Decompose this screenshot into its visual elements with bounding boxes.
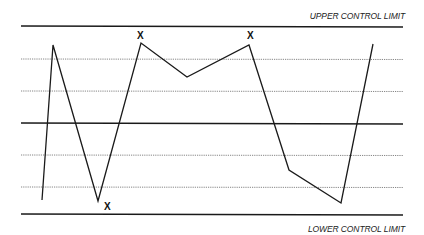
reference-line-lower-zone-1: [21, 187, 403, 188]
reference-line-upper-zone-2: [21, 91, 403, 92]
reference-line-center-line: [21, 123, 403, 124]
reference-line-upper-zone-1: [21, 59, 403, 60]
out-of-zone-marker-2: X: [247, 30, 254, 41]
upper-control-limit-label: UPPER CONTROL LIMIT: [310, 11, 405, 21]
reference-line-lower-zone-2: [21, 155, 403, 156]
reference-line-lower-control-limit: [21, 214, 403, 215]
reference-line-upper-control-limit: [21, 26, 403, 27]
reference-lines: [21, 26, 403, 215]
out-of-zone-marker-3: X: [104, 201, 111, 212]
control-chart: [0, 0, 424, 235]
out-of-zone-marker-1: X: [137, 30, 144, 41]
lower-control-limit-label: LOWER CONTROL LIMIT: [308, 224, 405, 234]
